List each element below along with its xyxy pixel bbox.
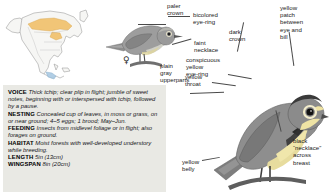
fact-length: LENGTH 5in (13cm) xyxy=(8,154,161,161)
fact-wingspan-heading: WINGSPAN xyxy=(8,161,41,167)
label-yellow-belly: yellow belly xyxy=(182,158,199,172)
label-paler-crown: paler crown xyxy=(167,2,183,16)
fact-length-body: 5in (13cm) xyxy=(35,154,63,160)
species-facts-panel: VOICE Thick tchip; clear plip in flight;… xyxy=(3,85,166,192)
fact-feeding: FEEDING Insects from midlevel foliage or… xyxy=(8,125,161,139)
female-sex-symbol: ♀ xyxy=(123,56,130,65)
male-bird-illustration xyxy=(210,58,329,194)
fact-nesting-heading: NESTING xyxy=(8,111,35,117)
label-dark-crown: dark crown xyxy=(229,28,245,42)
fact-habitat: HABITAT Moist forests with well-develope… xyxy=(8,140,161,154)
fact-wingspan: WINGSPAN 8in (20cm) xyxy=(8,161,161,168)
range-map xyxy=(4,2,90,82)
label-plain-gray-upperparts: plain gray upperparts xyxy=(160,62,189,84)
leader-line-paler-crown xyxy=(138,24,166,25)
field-guide-page: ♀ xyxy=(0,0,329,194)
fact-voice-heading: VOICE xyxy=(8,89,27,95)
fact-habitat-heading: HABITAT xyxy=(8,140,34,146)
label-black-necklace-across-breast: black “necklace” across breast xyxy=(293,137,321,166)
label-bicolored-eye-ring: bicolored eye-ring xyxy=(193,11,218,25)
fact-wingspan-body: 8in (20cm) xyxy=(42,161,70,167)
fact-nesting: NESTING Concealed cup of leaves, in moss… xyxy=(8,111,161,125)
label-faint-necklace: faint necklace xyxy=(194,39,218,53)
fact-voice: VOICE Thick tchip; clear plip in flight;… xyxy=(8,89,161,110)
fact-length-heading: LENGTH xyxy=(8,154,33,160)
fact-voice-body: Thick tchip; clear plip in flight; jumbl… xyxy=(8,89,155,109)
label-yellow-patch-between-eye-and-bill: yellow patch between eye and bill xyxy=(280,4,303,40)
fact-feeding-heading: FEEDING xyxy=(8,125,35,131)
